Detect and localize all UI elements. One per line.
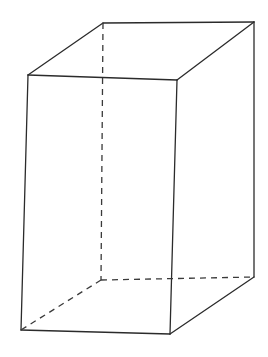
visible-edge-top-front-left-to-top-back-left <box>28 23 103 75</box>
hidden-edge-top-back-left-to-bottom-back-left <box>101 23 103 280</box>
visible-edge-bottom-front-left-to-bottom-front-right <box>21 330 170 334</box>
hidden-edges <box>21 23 254 330</box>
visible-edge-top-front-right-to-bottom-front-right <box>170 80 177 334</box>
visible-edge-top-front-left-to-bottom-front-left <box>21 75 28 330</box>
hidden-edge-bottom-back-left-to-bottom-front-left <box>21 280 101 330</box>
visible-edge-top-front-right-to-top-back-right <box>177 22 254 80</box>
prism-diagram <box>0 0 268 357</box>
visible-edges <box>21 22 254 334</box>
visible-edge-top-back-left-to-top-back-right <box>103 22 254 23</box>
visible-edge-bottom-front-right-to-bottom-back-right <box>170 277 254 334</box>
hidden-edge-bottom-back-left-to-bottom-back-right <box>101 277 254 280</box>
